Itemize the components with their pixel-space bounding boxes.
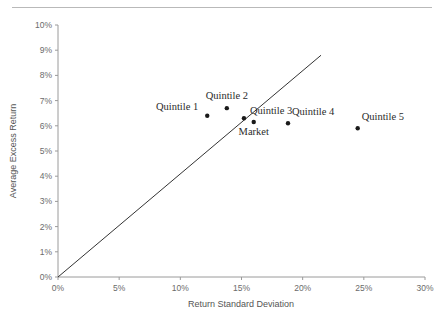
y-tick-label: 2%	[40, 222, 53, 232]
data-point-marker	[356, 126, 360, 130]
data-point-marker	[225, 106, 229, 110]
y-axis-title: Average Excess Return	[8, 104, 18, 198]
data-point-label: Quintile 5	[362, 111, 404, 122]
y-tick-label: 0%	[40, 272, 53, 282]
data-point-label: Quintile 3	[250, 105, 292, 116]
y-tick-label: 10%	[35, 20, 52, 30]
data-point-marker	[252, 120, 256, 124]
x-tick-label: 15%	[233, 283, 250, 293]
y-tick-label: 4%	[40, 171, 53, 181]
y-tick-label: 9%	[40, 45, 53, 55]
y-tick-label: 7%	[40, 96, 53, 106]
capital-market-line	[58, 55, 321, 277]
x-tick-label: 10%	[172, 283, 189, 293]
data-point-labels: Quintile 1Quintile 2Quintile 3MarketQuin…	[156, 90, 404, 137]
data-point-label: Quintile 1	[156, 101, 198, 112]
y-tick-label: 8%	[40, 70, 53, 80]
y-tick-label: 1%	[40, 247, 53, 257]
plot-area: 0%1%2%3%4%5%6%7%8%9%10% 0%5%10%15%20%25%…	[0, 0, 443, 321]
x-axis-tick-labels: 0%5%10%15%20%25%30%	[52, 283, 434, 293]
y-tick-label: 6%	[40, 121, 53, 131]
x-tick-label: 30%	[416, 283, 433, 293]
data-point-marker	[205, 114, 209, 118]
scatter-chart-figure: 0%1%2%3%4%5%6%7%8%9%10% 0%5%10%15%20%25%…	[0, 0, 443, 321]
y-tick-label: 5%	[40, 146, 53, 156]
data-point-label: Quintile 2	[206, 90, 248, 101]
x-tick-label: 5%	[113, 283, 126, 293]
x-tick-label: 25%	[355, 283, 372, 293]
data-point-label: Market	[239, 126, 269, 137]
data-point-marker	[242, 116, 246, 120]
x-tick-label: 0%	[52, 283, 65, 293]
x-tick-label: 20%	[294, 283, 311, 293]
y-tick-label: 3%	[40, 196, 53, 206]
x-axis-title: Return Standard Deviation	[188, 299, 294, 309]
data-point-label: Quintile 4	[292, 106, 335, 117]
y-axis-tick-labels: 0%1%2%3%4%5%6%7%8%9%10%	[35, 20, 52, 282]
data-point-marker	[286, 121, 290, 125]
